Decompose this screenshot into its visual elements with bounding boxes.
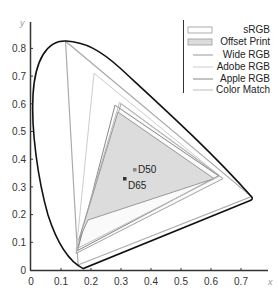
d65-point <box>123 177 127 181</box>
svg-text:0.1: 0.1 <box>54 276 68 287</box>
svg-text:0.3: 0.3 <box>114 276 128 287</box>
svg-text:0.2: 0.2 <box>84 276 98 287</box>
svg-text:0.5: 0.5 <box>174 276 188 287</box>
x-axis-label: x <box>267 277 273 287</box>
svg-text:0.6: 0.6 <box>204 276 218 287</box>
svg-text:0.7: 0.7 <box>234 276 248 287</box>
svg-text:0.8: 0.8 <box>12 43 26 54</box>
svg-text:Apple RGB: Apple RGB <box>220 73 270 84</box>
svg-text:0.4: 0.4 <box>144 276 158 287</box>
d65-label: D65 <box>128 180 147 191</box>
chromaticity-chart: D50 D65 0 0.1 0.2 0.3 0.4 0.5 0.6 0.7 0.… <box>0 0 278 291</box>
svg-text:Adobe RGB: Adobe RGB <box>217 61 271 72</box>
y-tick-labels: 0 0.1 0.2 0.3 0.4 0.5 0.6 0.7 0.8 <box>12 43 26 276</box>
svg-text:0.3: 0.3 <box>12 182 26 193</box>
d50-label: D50 <box>138 164 157 175</box>
svg-text:0.5: 0.5 <box>12 126 26 137</box>
svg-text:0.7: 0.7 <box>12 71 26 82</box>
svg-text:Wide RGB: Wide RGB <box>223 49 271 60</box>
svg-text:0.4: 0.4 <box>12 154 26 165</box>
legend: sRGB Offset Print Wide RGB Adobe RGB App… <box>183 19 276 95</box>
x-tick-labels: 0 0.1 0.2 0.3 0.4 0.5 0.6 0.7 <box>28 276 248 287</box>
svg-text:0.6: 0.6 <box>12 99 26 110</box>
svg-text:0.2: 0.2 <box>12 209 26 220</box>
d50-point <box>133 168 137 172</box>
svg-text:sRGB: sRGB <box>243 24 270 35</box>
svg-text:Offset Print: Offset Print <box>220 36 270 47</box>
svg-text:Color Match: Color Match <box>216 84 270 95</box>
y-axis-label: y <box>19 18 25 28</box>
svg-text:0: 0 <box>28 276 34 287</box>
svg-text:0.1: 0.1 <box>12 237 26 248</box>
svg-text:0: 0 <box>20 265 26 276</box>
